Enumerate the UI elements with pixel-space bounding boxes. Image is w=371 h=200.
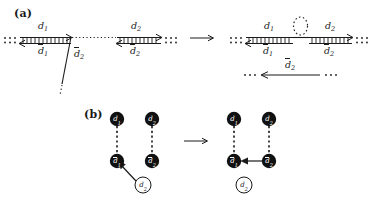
node-d1-bottom-right[interactable] — [227, 154, 241, 168]
transition-arrow-b — [184, 138, 208, 144]
panel-b-vectors — [0, 0, 371, 200]
node-d2-bottom-left[interactable] — [145, 154, 159, 168]
figure-root: (a) — [0, 0, 371, 200]
node-d2-open-right[interactable] — [236, 177, 252, 193]
node-d2-top-left[interactable] — [145, 112, 159, 126]
node-d1-top-right[interactable] — [227, 112, 241, 126]
node-d1-top-left[interactable] — [110, 112, 124, 126]
edge-d2bar-to-d1bar-right — [241, 158, 262, 164]
node-d2-bottom-right[interactable] — [262, 154, 276, 168]
node-d2-open-left[interactable] — [135, 177, 151, 193]
node-d2-top-right[interactable] — [262, 112, 276, 126]
node-d1-bottom-left[interactable] — [110, 154, 124, 168]
